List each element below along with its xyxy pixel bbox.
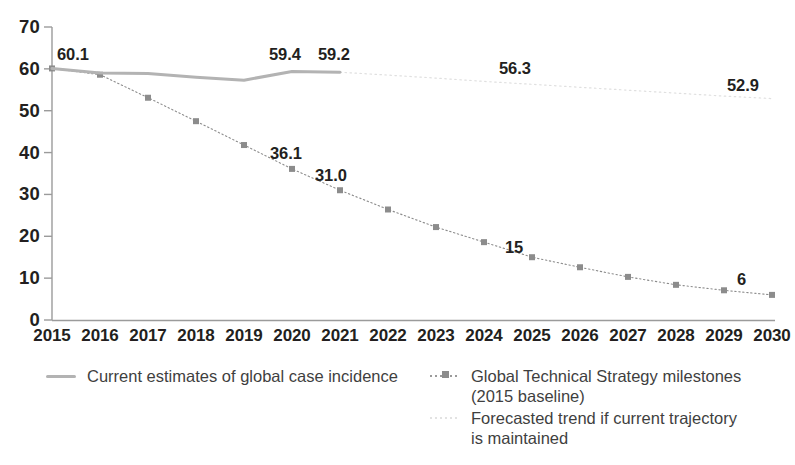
legend-label-gts-milestones: Global Technical Strategy milestones (20…: [471, 366, 741, 406]
series-data-point-marker: [145, 95, 151, 101]
series-data-point-marker: [529, 254, 535, 260]
label-52-9: 52.9: [727, 77, 759, 94]
x-axis-tick-label: 2020: [266, 327, 318, 344]
x-axis-tick-label: 2026: [554, 327, 606, 344]
x-axis-tick-label: 2017: [122, 327, 174, 344]
x-axis-tick-label: 2028: [650, 327, 702, 344]
legend-label-current-estimates: Current estimates of global case inciden…: [87, 366, 398, 386]
label-15: 15: [505, 239, 523, 256]
series-line: [340, 72, 772, 98]
x-axis-tick-label: 2015: [26, 327, 78, 344]
y-axis-tick-label: 40: [0, 144, 40, 163]
series-data-point-marker: [721, 287, 727, 293]
series-data-point-marker: [289, 166, 295, 172]
series-data-point-marker: [433, 224, 439, 230]
y-axis-tick-label: 30: [0, 185, 40, 204]
label-31-0: 31.0: [315, 167, 347, 184]
y-axis-tick-label: 50: [0, 102, 40, 121]
x-axis-tick-label: 2024: [458, 327, 510, 344]
legend-label-forecasted-trend: Forecasted trend if current trajectory i…: [471, 408, 737, 448]
series-data-point-marker: [337, 187, 343, 193]
label-6: 6: [737, 271, 746, 288]
x-axis-tick-label: 2018: [170, 327, 222, 344]
x-axis-tick-label: 2030: [746, 327, 795, 344]
series-forecast: [340, 72, 772, 98]
label-60-1: 60.1: [57, 46, 89, 63]
x-axis-tick-label: 2021: [314, 327, 366, 344]
series-data-point-marker: [769, 292, 775, 298]
series-data-point-marker: [577, 264, 583, 270]
series-data-point-marker: [193, 118, 199, 124]
label-59-4: 59.4: [269, 46, 301, 63]
x-axis-tick-label: 2025: [506, 327, 558, 344]
solid-line-key-icon: [46, 366, 78, 386]
label-36-1: 36.1: [270, 145, 302, 162]
series-data-point-marker: [673, 282, 679, 288]
series-line: [52, 68, 772, 295]
series-data-point-marker: [241, 142, 247, 148]
series-data-point-marker: [481, 239, 487, 245]
legend-item-forecasted-trend[interactable]: Forecasted trend if current trajectory i…: [430, 408, 737, 448]
label-59-2: 59.2: [318, 46, 350, 63]
axis-lines: [52, 27, 775, 321]
x-axis-tick-label: 2027: [602, 327, 654, 344]
label-56-3: 56.3: [499, 60, 531, 77]
series-data-point-marker: [385, 206, 391, 212]
y-axis-tick-label: 70: [0, 18, 40, 37]
y-axis-tick-label: 60: [0, 60, 40, 79]
legend-item-current-estimates[interactable]: Current estimates of global case inciden…: [46, 366, 398, 386]
x-axis-tick-label: 2019: [218, 327, 270, 344]
series-data-point-marker: [625, 274, 631, 280]
faint-dotted-line-key-icon: [430, 408, 462, 428]
legend-item-gts-milestones[interactable]: Global Technical Strategy milestones (20…: [430, 366, 741, 406]
x-axis-tick-label: 2029: [698, 327, 750, 344]
y-axis-tick-label: 20: [0, 227, 40, 246]
x-axis-tick-label: 2016: [74, 327, 126, 344]
y-axis-tick-label: 10: [0, 269, 40, 288]
chart-legend: Current estimates of global case inciden…: [0, 358, 779, 465]
x-axis-tick-label: 2022: [362, 327, 414, 344]
series-gts-milestones: [49, 65, 775, 297]
x-axis-tick-label: 2023: [410, 327, 462, 344]
dotted-line-square-marker-key-icon: [430, 366, 462, 386]
